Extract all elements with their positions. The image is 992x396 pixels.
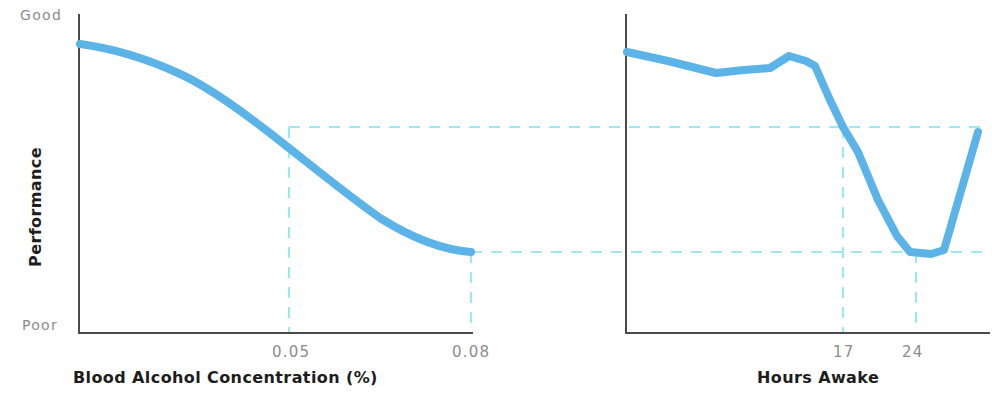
left-y-axis-title: Performance [26, 147, 45, 267]
left-x-axis-title: Blood Alcohol Concentration (%) [73, 368, 378, 387]
right-x-axis-title: Hours Awake [757, 368, 879, 387]
right-performance-curve [627, 52, 978, 254]
left-x-tick-label-005: 0.05 [272, 343, 310, 361]
data-curves-layer [0, 0, 992, 396]
right-x-tick-label-17: 17 [833, 343, 855, 361]
left-y-axis-top-label: Good [20, 7, 62, 23]
left-performance-curve [80, 44, 471, 252]
right-x-tick-label-24: 24 [902, 343, 924, 361]
left-y-axis-bottom-label: Poor [22, 317, 58, 333]
left-x-tick-label-008: 0.08 [452, 343, 490, 361]
performance-comparison-figure: Good Poor Performance 0.05 0.08 Blood Al… [0, 0, 992, 396]
